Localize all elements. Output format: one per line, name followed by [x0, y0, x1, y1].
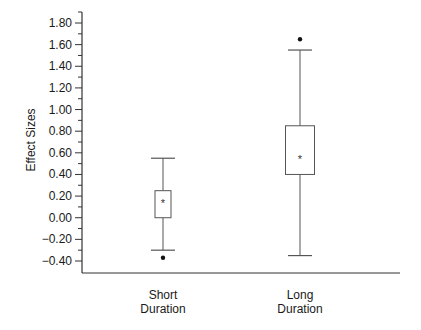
- y-tick-label: −0.20: [42, 232, 73, 246]
- category-label-line: Duration: [118, 302, 208, 316]
- outlier-point: [161, 256, 165, 260]
- category-label-line: Duration: [255, 302, 345, 316]
- y-tick-label: 1.00: [49, 103, 73, 117]
- y-tick-label: −0.40: [42, 254, 73, 268]
- box-plot-chart: −0.40−0.200.000.200.400.600.801.001.201.…: [0, 0, 421, 330]
- mean-marker: *: [298, 153, 303, 165]
- category-label-line: Long: [255, 288, 345, 302]
- y-tick-label: 0.40: [49, 167, 73, 181]
- y-tick-label: 1.60: [49, 38, 73, 52]
- x-category-label: ShortDuration: [118, 288, 208, 316]
- y-axis: −0.40−0.200.000.200.400.600.801.001.201.…: [42, 12, 82, 273]
- box-long-duration: *: [286, 37, 315, 256]
- box-plots: **: [151, 37, 315, 260]
- y-axis-title: Effect Sizes: [24, 108, 38, 171]
- box-short-duration: *: [151, 158, 175, 260]
- y-tick-label: 0.00: [49, 211, 73, 225]
- mean-marker: *: [161, 197, 166, 209]
- x-category-label: LongDuration: [255, 288, 345, 316]
- y-tick-label: 0.60: [49, 146, 73, 160]
- iqr-box: [286, 126, 315, 175]
- y-tick-label: 0.20: [49, 189, 73, 203]
- outlier-point: [298, 37, 302, 41]
- y-tick-label: 1.40: [49, 59, 73, 73]
- y-tick-label: 1.80: [49, 16, 73, 30]
- y-tick-label: 0.80: [49, 124, 73, 138]
- y-tick-label: 1.20: [49, 81, 73, 95]
- category-label-line: Short: [118, 288, 208, 302]
